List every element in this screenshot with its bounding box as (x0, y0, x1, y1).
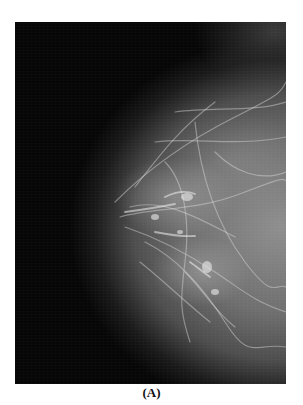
figure: (A) (0, 0, 303, 405)
mammogram-image (15, 22, 286, 384)
film-grain (15, 22, 286, 384)
figure-caption: (A) (0, 385, 303, 401)
